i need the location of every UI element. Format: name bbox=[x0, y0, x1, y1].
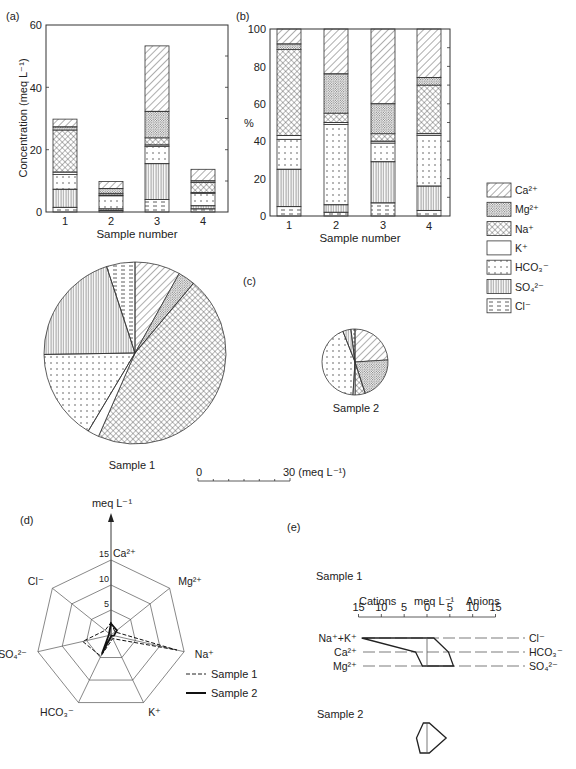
panel-a-bars bbox=[53, 46, 215, 212]
svg-text:40: 40 bbox=[30, 82, 42, 94]
stiff-tick-label: 10 bbox=[467, 601, 479, 613]
bar-segment bbox=[53, 189, 77, 207]
pie-sample-2-label: Sample 2 bbox=[333, 402, 379, 414]
panel-a-yticks: 6040200 bbox=[30, 19, 42, 218]
bar-segment bbox=[417, 136, 441, 186]
panel-b-xticks: 1234 bbox=[286, 219, 432, 232]
bar-segment bbox=[324, 29, 348, 74]
legend-label: Mg²⁺ bbox=[515, 203, 539, 215]
stiff-tick-label: 5 bbox=[447, 601, 453, 613]
radar-ring-label: 10 bbox=[99, 574, 109, 584]
svg-text:2: 2 bbox=[333, 219, 339, 231]
pie-sample-1-label: Sample 1 bbox=[109, 459, 155, 471]
legend-label: Cl⁻ bbox=[515, 300, 531, 312]
svg-text:Sample 2: Sample 2 bbox=[211, 687, 257, 699]
stiff-sample-1-label: Sample 1 bbox=[316, 570, 362, 582]
bar-segment bbox=[53, 175, 77, 190]
svg-text:1: 1 bbox=[62, 215, 68, 227]
bar-segment bbox=[277, 29, 301, 44]
svg-text:80: 80 bbox=[254, 61, 266, 73]
svg-text:40: 40 bbox=[254, 135, 266, 147]
bar-segment bbox=[53, 127, 77, 130]
stiff-tick-label: 10 bbox=[375, 601, 387, 613]
radar-axis-title: meq L⁻¹ bbox=[92, 497, 133, 509]
bar-segment bbox=[417, 186, 441, 210]
legend-swatch bbox=[487, 202, 511, 216]
bar-segment bbox=[191, 206, 215, 209]
panel-e-label: (e) bbox=[287, 521, 300, 533]
legend-swatch bbox=[487, 299, 511, 313]
svg-text:0: 0 bbox=[196, 466, 202, 478]
legend-swatch bbox=[487, 260, 511, 274]
bar-segment bbox=[417, 78, 441, 85]
bar-segment bbox=[145, 46, 169, 111]
radar-axis-label: Na⁺ bbox=[195, 648, 214, 660]
ion-legend: Ca²⁺Mg²⁺Na⁺K⁺HCO₃⁻SO₄²⁻Cl⁻ bbox=[487, 183, 549, 313]
radar-ring-label: 15 bbox=[99, 549, 109, 559]
bar-segment bbox=[277, 136, 301, 140]
panel-b: (b) 1008060 40200 % 1234 Sample number bbox=[236, 10, 450, 244]
svg-text:4: 4 bbox=[200, 215, 206, 227]
panel-c: (c) Sample 1 Sample 2 0 30 (meq L⁻¹) bbox=[44, 262, 388, 481]
bar-segment bbox=[417, 210, 441, 216]
svg-text:Sample 1: Sample 1 bbox=[211, 668, 257, 680]
bar-segment bbox=[371, 134, 395, 141]
svg-text:20: 20 bbox=[254, 173, 266, 185]
legend-label: HCO₃⁻ bbox=[515, 261, 549, 273]
panel-b-bars bbox=[277, 29, 441, 216]
legend-label: Na⁺ bbox=[515, 223, 534, 235]
stiff-anion-label: SO₄²⁻ bbox=[529, 660, 558, 672]
stiff-cation-label: Ca²⁺ bbox=[334, 646, 357, 658]
bar-segment bbox=[191, 182, 215, 192]
stiff-tick-label: 15 bbox=[352, 601, 364, 613]
bar-segment bbox=[191, 209, 215, 212]
bar-segment bbox=[53, 207, 77, 212]
radar-axis-label: SO₄²⁻ bbox=[0, 648, 27, 660]
radar-axis-label: HCO₃⁻ bbox=[40, 706, 74, 718]
panel-a-xlabel: Sample number bbox=[96, 228, 177, 240]
panel-b-xlabel: Sample number bbox=[319, 232, 400, 244]
panel-a: (a) 6040200 Concentration (meq L⁻¹) 1234… bbox=[6, 10, 228, 240]
legend-swatch bbox=[487, 241, 511, 255]
bar-segment bbox=[324, 74, 348, 113]
bar-segment bbox=[99, 189, 123, 194]
pie-scale-bar: 0 30 (meq L⁻¹) bbox=[196, 466, 346, 481]
panel-a-label: (a) bbox=[6, 10, 19, 22]
stiff-cation-label: Mg²⁺ bbox=[333, 660, 357, 672]
bar-segment bbox=[277, 50, 301, 136]
svg-text:0: 0 bbox=[36, 206, 42, 218]
stiff-tick-label: 0 bbox=[424, 601, 430, 613]
stiff-anion-label: HCO₃⁻ bbox=[529, 646, 563, 658]
bar-segment bbox=[277, 139, 301, 169]
legend-swatch bbox=[487, 222, 511, 236]
svg-text:20: 20 bbox=[30, 144, 42, 156]
bar-segment bbox=[324, 205, 348, 212]
bar-segment bbox=[324, 113, 348, 122]
radar-chart: Ca²⁺Mg²⁺Na⁺K⁺HCO₃⁻SO₄²⁻Cl⁻51015 bbox=[0, 547, 214, 718]
svg-text:4: 4 bbox=[426, 220, 432, 232]
panel-b-label: (b) bbox=[236, 10, 249, 22]
bar-segment bbox=[53, 130, 77, 172]
bar-segment bbox=[324, 212, 348, 216]
bar-segment bbox=[191, 169, 215, 181]
svg-text:60: 60 bbox=[254, 98, 266, 110]
panel-d-label: (d) bbox=[20, 514, 33, 526]
figure-canvas: (a) 6040200 Concentration (meq L⁻¹) 1234… bbox=[0, 0, 576, 769]
svg-text:3: 3 bbox=[154, 215, 160, 227]
svg-text:2: 2 bbox=[108, 215, 114, 227]
arrow-up-icon bbox=[108, 513, 114, 522]
radar-axis-label: K⁺ bbox=[148, 706, 161, 718]
panel-a-ylabel: Concentration (meq L⁻¹) bbox=[17, 58, 29, 177]
pie-slice bbox=[355, 329, 388, 362]
bar-segment bbox=[145, 138, 169, 145]
panel-d: (d) meq L⁻¹ Ca²⁺Mg²⁺Na⁺K⁺HCO₃⁻SO₄²⁻Cl⁻51… bbox=[0, 497, 257, 718]
stiff-sample-2-label: Sample 2 bbox=[317, 708, 363, 720]
stiff-cation-label: Na⁺+K⁺ bbox=[318, 632, 357, 644]
radar-series-sample-2 bbox=[102, 624, 117, 654]
svg-text:30 (meq L⁻¹): 30 (meq L⁻¹) bbox=[283, 466, 346, 478]
legend-label: SO₄²⁻ bbox=[515, 281, 544, 293]
svg-text:100: 100 bbox=[248, 23, 266, 35]
bar-segment bbox=[277, 169, 301, 206]
radar-axis-label: Ca²⁺ bbox=[113, 547, 136, 559]
bar-segment bbox=[417, 85, 441, 134]
